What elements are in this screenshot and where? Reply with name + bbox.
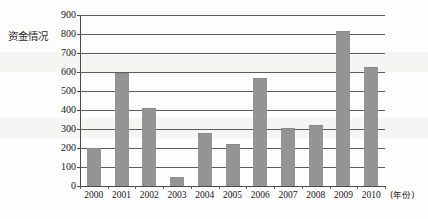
y-tick-label: 0: [71, 181, 76, 191]
x-tick-label: 2000: [84, 190, 103, 201]
x-tick-mark: [385, 186, 386, 189]
x-tick-label: 2008: [306, 190, 325, 201]
x-tick-label: 2010: [362, 190, 381, 201]
y-tick-mark: [77, 15, 80, 16]
x-tick-mark: [163, 186, 164, 189]
x-tick-mark: [246, 186, 247, 189]
x-tick-mark: [80, 186, 81, 189]
bar: [115, 73, 129, 186]
y-tick-label: 400: [61, 105, 76, 115]
x-tick-label: 2001: [112, 190, 131, 201]
bar: [309, 125, 323, 186]
bar: [142, 108, 156, 186]
x-tick-label: 2005: [223, 190, 242, 201]
y-tick-label: 600: [61, 67, 76, 77]
y-tick-mark: [77, 72, 80, 73]
y-tick-mark: [77, 110, 80, 111]
bar: [336, 31, 350, 186]
bar: [170, 177, 184, 186]
x-axis-unit-label: (年份): [390, 190, 415, 201]
bar: [281, 128, 295, 186]
x-tick-label: 2003: [168, 190, 187, 201]
y-tick-label: 800: [61, 29, 76, 39]
y-tick-mark: [77, 167, 80, 168]
y-tick-mark: [77, 91, 80, 92]
y-tick-label: 500: [61, 86, 76, 96]
y-tick-mark: [77, 53, 80, 54]
x-tick-label: 2007: [278, 190, 297, 201]
x-tick-mark: [191, 186, 192, 189]
x-tick-label: 2009: [334, 190, 353, 201]
x-tick-label: 2006: [251, 190, 270, 201]
bar-chart: 资金情况 0100200300400500600700800900 (年份) 2…: [0, 0, 428, 219]
x-tick-mark: [330, 186, 331, 189]
gridline: [80, 15, 385, 16]
y-axis-label: 资金情况: [8, 30, 60, 43]
x-tick-mark: [357, 186, 358, 189]
y-tick-mark: [77, 34, 80, 35]
x-tick-mark: [219, 186, 220, 189]
x-tick-mark: [302, 186, 303, 189]
y-tick-label: 300: [61, 124, 76, 134]
y-tick-label: 900: [61, 10, 76, 20]
bar: [226, 144, 240, 186]
bar: [87, 148, 101, 186]
x-tick-mark: [108, 186, 109, 189]
y-tick-label: 100: [61, 162, 76, 172]
plot-area: 0100200300400500600700800900: [80, 15, 385, 186]
bar: [198, 133, 212, 186]
y-tick-label: 700: [61, 48, 76, 58]
x-tick-label: 2004: [195, 190, 214, 201]
bar: [364, 67, 378, 186]
x-tick-mark: [135, 186, 136, 189]
y-tick-mark: [77, 148, 80, 149]
bar: [253, 78, 267, 186]
y-tick-mark: [77, 129, 80, 130]
x-tick-label: 2002: [140, 190, 159, 201]
y-tick-label: 200: [61, 143, 76, 153]
gridline: [80, 186, 385, 187]
x-tick-mark: [274, 186, 275, 189]
